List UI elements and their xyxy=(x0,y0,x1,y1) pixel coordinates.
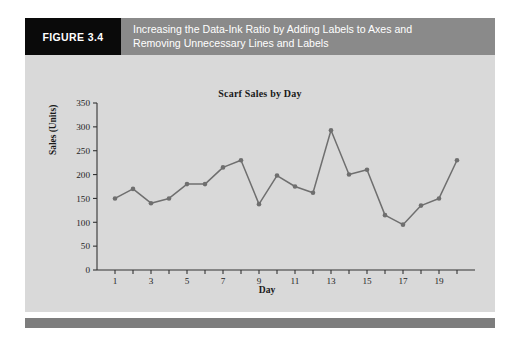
data-point xyxy=(167,196,172,201)
y-tick-label: 50 xyxy=(81,241,91,251)
data-point xyxy=(203,182,208,187)
y-tick-label: 0 xyxy=(85,265,90,275)
chart-container: Scarf Sales by Day Sales (Units) Day 050… xyxy=(25,55,495,312)
figure-number-badge: FIGURE 3.4 xyxy=(25,18,121,55)
y-tick-label: 250 xyxy=(76,146,90,156)
x-tick-label: 9 xyxy=(257,276,262,286)
data-point xyxy=(365,168,370,173)
y-tick-label: 100 xyxy=(76,218,90,228)
data-point xyxy=(419,203,424,208)
data-point xyxy=(131,187,136,192)
figure-page: FIGURE 3.4 Increasing the Data-Ink Ratio… xyxy=(0,0,520,354)
x-axis-ticks: 135791113151719 xyxy=(113,270,457,286)
data-point xyxy=(221,165,226,170)
data-point xyxy=(113,196,118,201)
x-tick-label: 13 xyxy=(326,276,336,286)
x-tick-label: 19 xyxy=(434,276,444,286)
data-point xyxy=(329,128,334,133)
data-point xyxy=(149,201,154,206)
data-point xyxy=(239,158,244,163)
x-tick-label: 1 xyxy=(113,276,118,286)
figure-header-band: FIGURE 3.4 Increasing the Data-Ink Ratio… xyxy=(25,18,495,55)
data-point xyxy=(257,202,262,207)
data-point xyxy=(311,190,316,195)
figure-caption: Increasing the Data-Ink Ratio by Adding … xyxy=(121,18,495,55)
y-tick-label: 350 xyxy=(76,98,90,108)
data-point xyxy=(275,173,280,178)
data-point xyxy=(347,172,352,177)
line-chart-svg: 050100150200250300350 135791113151719 xyxy=(25,55,495,312)
figure-caption-line-1: Increasing the Data-Ink Ratio by Adding … xyxy=(133,23,487,37)
y-tick-label: 300 xyxy=(76,122,90,132)
x-tick-label: 3 xyxy=(149,276,154,286)
x-tick-label: 7 xyxy=(221,276,226,286)
figure-caption-line-2: Removing Unnecessary Lines and Labels xyxy=(133,37,487,51)
data-series-line xyxy=(115,130,457,224)
data-point xyxy=(185,182,190,187)
figure-bottom-rule xyxy=(25,318,495,328)
x-tick-label: 17 xyxy=(398,276,408,286)
y-axis-ticks: 050100150200250300350 xyxy=(76,98,97,275)
x-tick-label: 5 xyxy=(185,276,190,286)
x-tick-label: 15 xyxy=(362,276,372,286)
data-point xyxy=(293,184,298,189)
figure-body-panel: Scarf Sales by Day Sales (Units) Day 050… xyxy=(25,55,495,312)
data-series-markers xyxy=(113,128,460,227)
data-point xyxy=(401,222,406,227)
y-tick-label: 200 xyxy=(76,170,90,180)
data-point xyxy=(455,158,460,163)
x-tick-label: 11 xyxy=(291,276,300,286)
data-point xyxy=(437,196,442,201)
data-point xyxy=(383,213,388,218)
y-tick-label: 150 xyxy=(76,194,90,204)
